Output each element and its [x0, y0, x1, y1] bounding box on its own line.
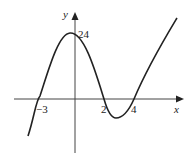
tick-label-4: 4 [131, 104, 137, 115]
x-axis-arrow-icon [176, 96, 184, 103]
y-axis-label: y [63, 9, 68, 20]
tick-label-minus-3: −3 [36, 104, 48, 115]
y-intercept-label: 24 [78, 29, 89, 40]
tick-label-2: 2 [101, 104, 107, 115]
plot-area [0, 0, 194, 158]
cubic-curve [28, 18, 177, 136]
x-axis-label: x [174, 104, 179, 115]
graph: y 24 x −3 2 4 [0, 0, 194, 158]
y-axis-arrow-icon [72, 12, 79, 20]
